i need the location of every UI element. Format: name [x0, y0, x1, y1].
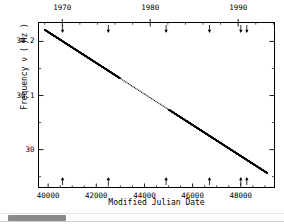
scrollbar-thumb[interactable] — [8, 215, 66, 221]
x-tick-label: 42000 — [85, 192, 108, 200]
y-axis-label: Frequency ν ( Hz ) — [20, 0, 29, 137]
top-axis-year-label: 1970 — [53, 4, 71, 12]
x-tick-label: 44000 — [133, 192, 156, 200]
horizontal-scrollbar[interactable] — [0, 213, 284, 222]
chart-figure: Modified Julian Date Frequency ν ( Hz ) … — [0, 0, 284, 210]
top-axis-year-label: 1980 — [141, 4, 159, 12]
top-axis-year-label: 1990 — [229, 4, 247, 12]
x-tick-label: 40000 — [37, 192, 60, 200]
y-tick-label: 30 — [1, 146, 35, 154]
y-tick-label: 30.2 — [1, 37, 35, 45]
x-tick-label: 48000 — [229, 192, 252, 200]
y-tick-label: 30.1 — [1, 92, 35, 100]
x-tick-label: 46000 — [181, 192, 204, 200]
plot-frame — [38, 22, 275, 188]
